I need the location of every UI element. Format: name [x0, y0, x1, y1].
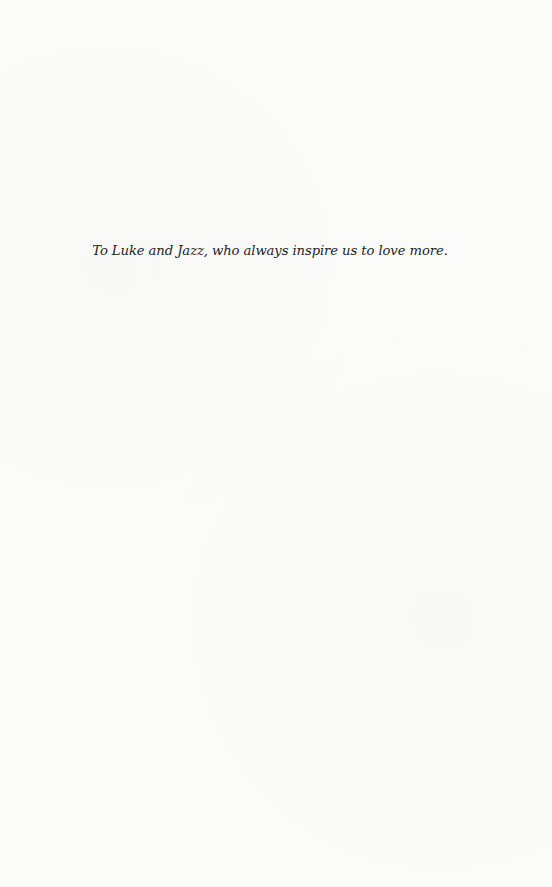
book-page: To Luke and Jazz, who always inspire us …	[0, 0, 552, 887]
dedication-text: To Luke and Jazz, who always inspire us …	[0, 242, 540, 260]
